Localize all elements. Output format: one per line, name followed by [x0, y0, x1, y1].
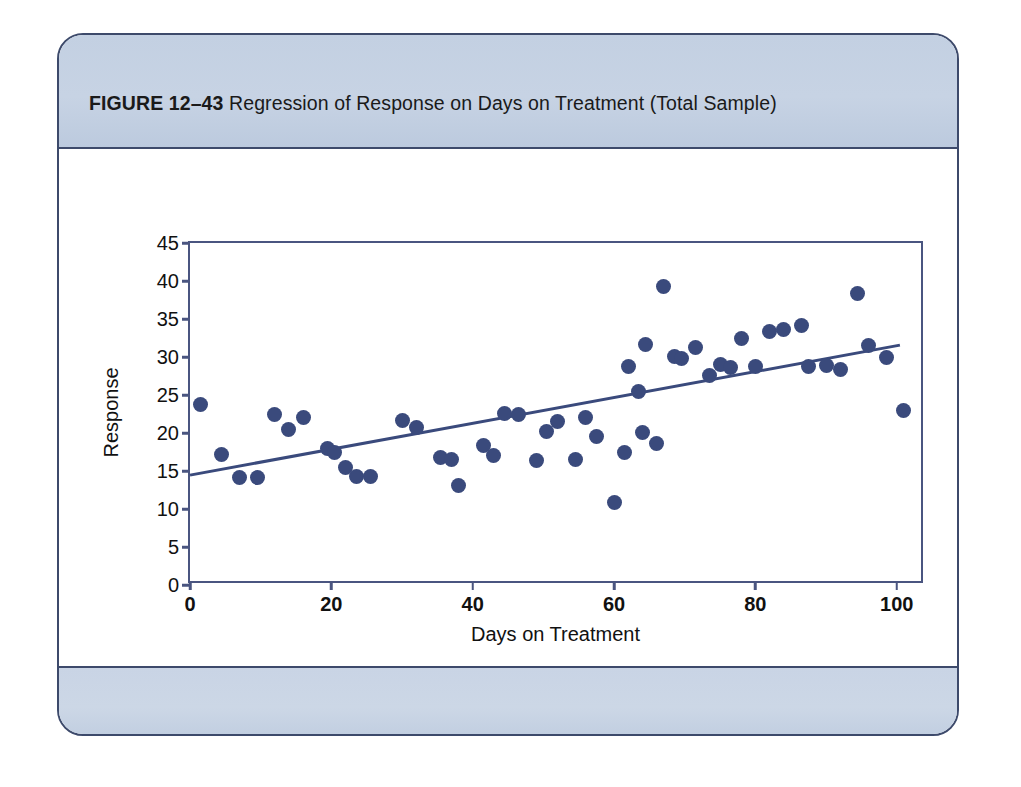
- plot-frame: 051015202530354045020406080100: [188, 241, 923, 583]
- scatter-point: [214, 447, 229, 462]
- scatter-point: [819, 358, 834, 373]
- scatter-point: [656, 279, 671, 294]
- scatter-point: [550, 414, 565, 429]
- scatter-point: [349, 469, 364, 484]
- x-axis-tick-mark: [189, 581, 192, 590]
- scatter-point: [762, 324, 777, 339]
- scatter-point: [879, 350, 894, 365]
- y-axis-tick-mark: [182, 280, 190, 283]
- scatter-point: [409, 420, 424, 435]
- scatter-point: [649, 436, 664, 451]
- x-axis-label: Days on Treatment: [188, 623, 923, 646]
- scatter-point: [395, 413, 410, 428]
- y-axis-tick-mark: [182, 356, 190, 359]
- x-axis-tick-mark: [613, 581, 616, 590]
- figure-footer-band: [59, 666, 957, 734]
- scatter-point: [193, 397, 208, 412]
- x-axis-tick-mark: [754, 581, 757, 590]
- scatter-point: [296, 410, 311, 425]
- x-axis-tick-mark: [471, 581, 474, 590]
- figure-card: FIGURE 12–43 Regression of Response on D…: [57, 33, 959, 736]
- scatter-point: [896, 403, 911, 418]
- scatter-point: [748, 359, 763, 374]
- y-axis-tick-mark: [182, 546, 190, 549]
- scatter-point: [621, 359, 636, 374]
- scatter-point: [861, 338, 876, 353]
- y-axis-tick-mark: [182, 318, 190, 321]
- scatter-point: [568, 452, 583, 467]
- y-axis-label: Response: [99, 241, 123, 583]
- scatter-point: [688, 340, 703, 355]
- scatter-point: [529, 453, 544, 468]
- y-axis-tick-mark: [182, 394, 190, 397]
- figure-caption: Regression of Response on Days on Treatm…: [229, 92, 777, 114]
- x-axis-tick-mark: [895, 581, 898, 590]
- scatter-point: [638, 337, 653, 352]
- scatter-point: [444, 452, 459, 467]
- y-axis-tick-mark: [182, 242, 190, 245]
- scatter-point: [674, 351, 689, 366]
- scatter-point: [250, 470, 265, 485]
- plot-area: Response 051015202530354045020406080100 …: [59, 149, 957, 670]
- scatter-point: [497, 406, 512, 421]
- y-axis-tick-mark: [182, 432, 190, 435]
- y-axis-tick-mark: [182, 470, 190, 473]
- page-title: FIGURE 12–43 Regression of Response on D…: [89, 92, 777, 115]
- scatter-point: [801, 359, 816, 374]
- scatter-point: [734, 331, 749, 346]
- scatter-point: [635, 425, 650, 440]
- y-axis-tick-mark: [182, 508, 190, 511]
- figure-label: FIGURE 12–43: [89, 92, 224, 114]
- figure-header-band: FIGURE 12–43 Regression of Response on D…: [59, 35, 957, 149]
- scatter-point: [363, 469, 378, 484]
- scatter-point: [451, 478, 466, 493]
- scatter-point: [607, 495, 622, 510]
- x-axis-tick-mark: [330, 581, 333, 590]
